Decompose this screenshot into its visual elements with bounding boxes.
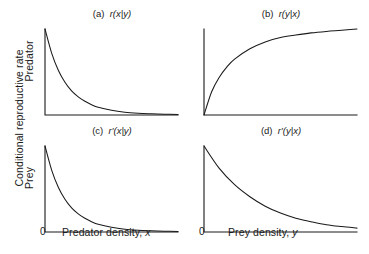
panel-a-svg [44, 28, 180, 120]
x-axis-zero-tick-right: 0 [199, 226, 205, 237]
panel-d-plot [203, 145, 359, 237]
panel-d-title: (d) r′(y|x) [203, 125, 359, 136]
panel-b-curve [204, 29, 357, 115]
panel-a-axes [45, 29, 178, 115]
panel-b-svg [203, 28, 359, 120]
row-label-prey: Prey [23, 133, 35, 223]
x-axis-label-left-text: Predator density, x [62, 226, 151, 238]
panel-c-curve [45, 146, 178, 231]
panel-a: (a) r(x|y) [44, 8, 180, 120]
panel-a-curve [45, 29, 178, 114]
panel-b-title: (b) r(y|x) [203, 8, 359, 19]
panel-c: (c) r′(x|y) [44, 125, 180, 237]
row-label-predator: Predator [23, 16, 35, 106]
panel-a-title: (a) r(x|y) [44, 8, 180, 19]
x-axis-label-left: Predator density, x [62, 226, 151, 238]
panel-b-plot [203, 28, 359, 120]
figure-conditional-reproductive-rate: Conditional reproductive rate Predator P… [0, 0, 369, 254]
panel-b-axes [204, 29, 357, 115]
panel-b: (b) r(y|x) [203, 8, 359, 120]
x-axis-zero-tick-left: 0 [40, 226, 46, 237]
panel-c-plot [44, 145, 180, 237]
panel-d-curve [204, 146, 357, 228]
x-axis-label-right-text: Prey density, y [228, 226, 298, 238]
x-axis-label-right: Prey density, y [228, 226, 298, 238]
panel-d-svg [203, 145, 359, 237]
panel-c-axes [45, 146, 178, 232]
panel-d: (d) r′(y|x) [203, 125, 359, 237]
panel-a-plot [44, 28, 180, 120]
panel-c-svg [44, 145, 180, 237]
panel-c-title: (c) r′(x|y) [44, 125, 180, 136]
panel-d-axes [204, 146, 357, 232]
